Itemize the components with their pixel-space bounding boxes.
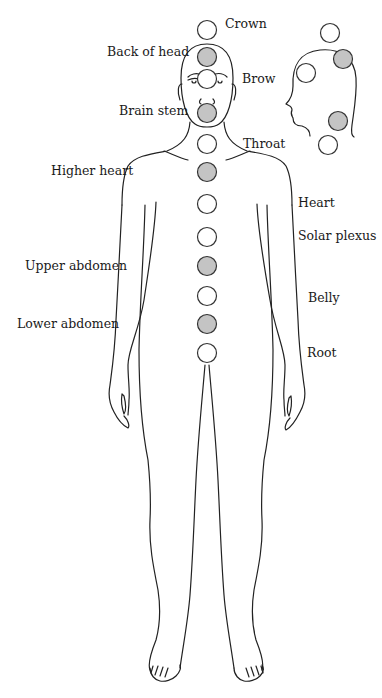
- label-heart: Heart: [298, 197, 335, 210]
- profile-points: [297, 24, 353, 155]
- body-diagram: Crown Back of head Brow Brain stem Throa…: [0, 0, 382, 698]
- collarbone-left: [164, 151, 188, 160]
- label-throat: Throat: [243, 138, 285, 151]
- profile-point-throat: [319, 136, 338, 155]
- eye-left: [192, 81, 196, 83]
- point-upper-abdomen: [198, 257, 217, 276]
- right-arm-inner: [257, 204, 285, 416]
- profile-point-crown: [321, 24, 340, 43]
- label-lower-abdomen: Lower abdomen: [17, 318, 119, 331]
- label-crown: Crown: [225, 18, 267, 31]
- label-higher-heart: Higher heart: [51, 165, 133, 178]
- point-solar-plexus: [198, 228, 217, 247]
- left-arm-inner: [128, 202, 156, 415]
- foot-left: [150, 665, 180, 681]
- label-back-of-head: Back of head: [107, 46, 189, 59]
- collarbone-right: [226, 151, 250, 160]
- point-heart: [198, 195, 217, 214]
- label-brow: Brow: [242, 73, 275, 86]
- label-brain-stem: Brain stem: [119, 105, 188, 118]
- point-brow: [198, 70, 217, 89]
- point-root: [198, 344, 217, 363]
- torso-right: [252, 205, 273, 670]
- eye-right: [218, 81, 222, 83]
- profile-point-brow: [297, 64, 316, 83]
- profile-point-brain-stem: [329, 112, 348, 131]
- right-thumb: [288, 396, 292, 416]
- point-brain-stem: [198, 104, 217, 123]
- label-upper-abdomen: Upper abdomen: [25, 260, 127, 273]
- front-points: [198, 21, 217, 363]
- label-solar-plexus: Solar plexus: [298, 230, 376, 243]
- label-belly: Belly: [308, 292, 340, 305]
- point-back-of-head: [198, 48, 217, 67]
- label-root: Root: [307, 347, 337, 360]
- point-crown: [198, 21, 217, 40]
- profile-point-back-of-head: [334, 50, 353, 69]
- eyebrow-right: [215, 74, 227, 77]
- point-belly: [198, 287, 217, 306]
- leg-left-inner: [180, 365, 205, 668]
- torso-left: [139, 205, 160, 670]
- leg-right-inner: [209, 365, 234, 668]
- point-higher-heart: [198, 163, 217, 182]
- toes-left: [151, 666, 168, 677]
- point-throat: [198, 135, 217, 154]
- neck-right: [224, 122, 292, 205]
- point-lower-abdomen: [198, 315, 217, 334]
- left-thumb: [122, 394, 126, 414]
